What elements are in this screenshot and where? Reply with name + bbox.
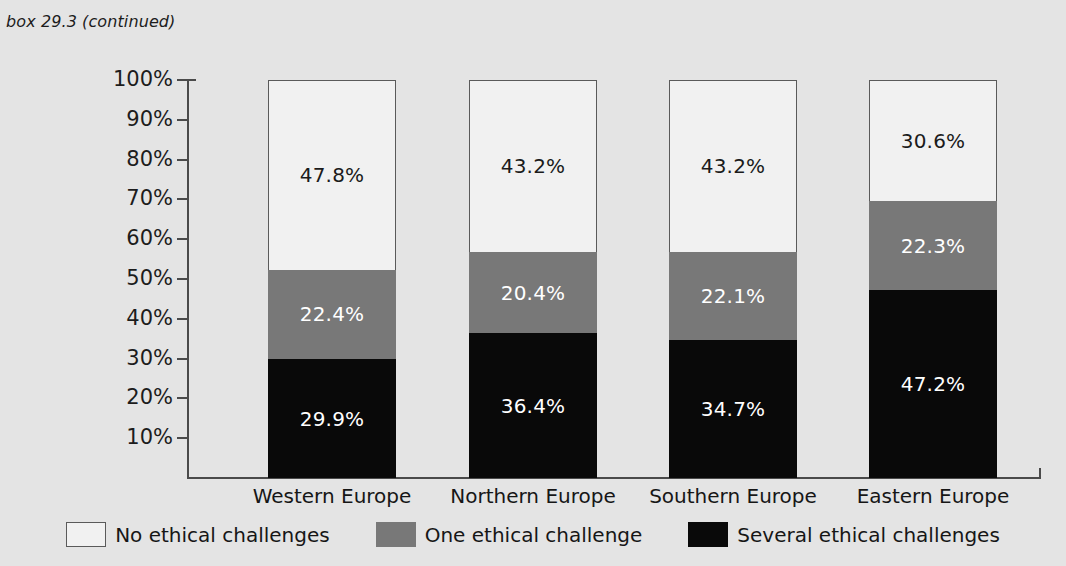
x-axis-label-eastern-europe: Eastern Europe bbox=[828, 484, 1038, 508]
y-axis-tick bbox=[177, 119, 187, 121]
y-axis-tick bbox=[177, 198, 187, 200]
y-axis-tick bbox=[177, 437, 187, 439]
y-axis-tick-label-wrap: 40% bbox=[85, 308, 173, 330]
bar-segment-value-label: 47.2% bbox=[901, 374, 966, 394]
y-axis-tick-label: 70% bbox=[93, 188, 173, 209]
y-axis-tick-label: 20% bbox=[93, 387, 173, 408]
bar-northern-europe[interactable]: 43.2%20.4%36.4% bbox=[469, 80, 597, 478]
stacked-bar-chart: box 29.3 (continued) 100%90%80%70%60%50%… bbox=[0, 0, 1066, 566]
bar-segment-value-label: 22.3% bbox=[901, 236, 966, 256]
legend-label: One ethical challenge bbox=[425, 523, 643, 547]
bar-segment[interactable]: 43.2% bbox=[469, 80, 597, 252]
bar-southern-europe[interactable]: 43.2%22.1%34.7% bbox=[669, 80, 797, 478]
gray-swatch-icon bbox=[376, 522, 416, 547]
bar-segment[interactable]: 20.4% bbox=[469, 252, 597, 333]
bar-segment[interactable]: 30.6% bbox=[869, 80, 997, 202]
bar-segment[interactable]: 47.2% bbox=[869, 290, 997, 478]
bar-segment-value-label: 29.9% bbox=[300, 409, 365, 429]
chart-legend: No ethical challengesOne ethical challen… bbox=[0, 522, 1066, 547]
bar-segment-value-label: 43.2% bbox=[501, 156, 566, 176]
y-axis-tick-label: 60% bbox=[93, 228, 173, 249]
bar-segment[interactable]: 34.7% bbox=[669, 340, 797, 478]
y-axis-tick-label: 80% bbox=[93, 149, 173, 170]
y-axis-tick-label-wrap: 90% bbox=[85, 109, 173, 131]
legend-label: Several ethical challenges bbox=[737, 523, 1000, 547]
y-axis-tick-label: 10% bbox=[93, 427, 173, 448]
y-axis-tick-label-wrap: 60% bbox=[85, 228, 173, 250]
bar-segment[interactable]: 22.3% bbox=[869, 201, 997, 290]
bar-segment[interactable]: 22.4% bbox=[268, 270, 396, 359]
y-axis-tick bbox=[177, 278, 187, 280]
y-axis-tick bbox=[177, 318, 187, 320]
y-axis-tick-label-wrap: 80% bbox=[85, 149, 173, 171]
legend-item-one-ethical-challenge[interactable]: One ethical challenge bbox=[376, 522, 643, 547]
x-axis-label-western-europe: Western Europe bbox=[227, 484, 437, 508]
black-swatch-icon bbox=[688, 522, 728, 547]
legend-item-several-ethical-challenges[interactable]: Several ethical challenges bbox=[688, 522, 1000, 547]
white-swatch-icon bbox=[66, 522, 106, 547]
bar-segment-value-label: 22.4% bbox=[300, 304, 365, 324]
y-axis-tick bbox=[177, 358, 187, 360]
y-axis-tick bbox=[177, 159, 187, 161]
bar-segment[interactable]: 22.1% bbox=[669, 252, 797, 340]
legend-label: No ethical challenges bbox=[115, 523, 330, 547]
bar-segment-value-label: 36.4% bbox=[501, 396, 566, 416]
bar-segment-value-label: 20.4% bbox=[501, 283, 566, 303]
bar-segment[interactable]: 36.4% bbox=[469, 333, 597, 478]
y-axis-tick-label: 40% bbox=[93, 308, 173, 329]
y-axis-tick bbox=[177, 79, 187, 81]
bar-segment-value-label: 22.1% bbox=[701, 286, 766, 306]
bar-eastern-europe[interactable]: 30.6%22.3%47.2% bbox=[869, 80, 997, 478]
y-axis-tick bbox=[177, 238, 187, 240]
bar-western-europe[interactable]: 47.8%22.4%29.9% bbox=[268, 80, 396, 478]
bar-segment-value-label: 43.2% bbox=[701, 156, 766, 176]
bar-segment-value-label: 30.6% bbox=[901, 131, 966, 151]
page-caption: box 29.3 (continued) bbox=[6, 12, 175, 31]
bar-segment-value-label: 34.7% bbox=[701, 399, 766, 419]
bar-segment[interactable]: 47.8% bbox=[268, 80, 396, 270]
y-axis-tick bbox=[177, 397, 187, 399]
legend-item-no-ethical-challenges[interactable]: No ethical challenges bbox=[66, 522, 330, 547]
bar-segment[interactable]: 43.2% bbox=[669, 80, 797, 252]
y-axis-tick-label: 50% bbox=[93, 268, 173, 289]
x-axis-label-northern-europe: Northern Europe bbox=[428, 484, 638, 508]
y-axis-tick-label-wrap: 70% bbox=[85, 188, 173, 210]
y-axis-tick-label: 100% bbox=[93, 69, 173, 90]
y-axis-tick-label: 30% bbox=[93, 348, 173, 369]
bar-segment-value-label: 47.8% bbox=[300, 165, 365, 185]
y-axis-tick-label-wrap: 10% bbox=[85, 427, 173, 449]
plot-area: 47.8%22.4%29.9%43.2%20.4%36.4%43.2%22.1%… bbox=[187, 80, 1040, 478]
x-axis-label-southern-europe: Southern Europe bbox=[628, 484, 838, 508]
y-axis-tick-label-wrap: 100% bbox=[85, 69, 173, 91]
y-axis-tick-label-wrap: 50% bbox=[85, 268, 173, 290]
y-axis-tick-label-wrap: 30% bbox=[85, 348, 173, 370]
y-axis-tick-label-wrap: 20% bbox=[85, 387, 173, 409]
y-axis-tick-label: 90% bbox=[93, 109, 173, 130]
bar-segment[interactable]: 29.9% bbox=[268, 359, 396, 478]
